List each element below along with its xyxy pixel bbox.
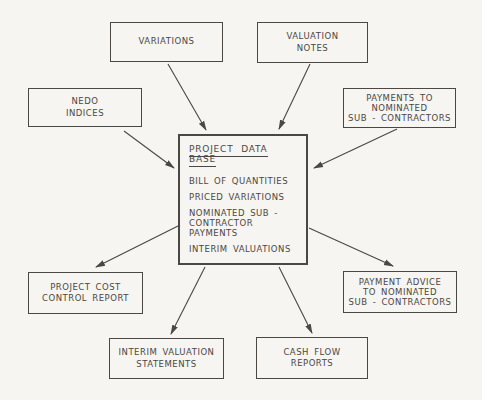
node-label-line: VARIATIONS <box>139 36 195 47</box>
node-label-line: NOTES <box>297 43 329 54</box>
arrow-nedo-indices-to-database <box>124 131 174 168</box>
arrow-database-to-project-cost-report <box>96 225 180 267</box>
arrow-variations-to-database <box>168 64 206 130</box>
node-payments-to-nominated-sub-contractors: PAYMENTS TO NOMINATED SUB - CONTRACTORS <box>343 88 456 128</box>
node-label-line: NOMINATED <box>371 103 427 113</box>
arrow-database-to-cash-flow <box>279 267 312 333</box>
node-label-line: SUB - CONTRACTORS <box>348 113 451 123</box>
node-label-line: NEDO <box>72 96 99 107</box>
node-interim-valuation-statements: INTERIM VALUATION STATEMENTS <box>109 338 224 379</box>
database-item: NOMINATED SUB - CONTRACTOR PAYMENTS <box>189 208 302 238</box>
node-label-line: PROJECT COST <box>50 282 121 293</box>
node-payment-advice-to-nominated-sub-contractors: PAYMENT ADVICE TO NOMINATED SUB - CONTRA… <box>343 271 457 313</box>
database-item: BILL OF QUANTITIES <box>189 176 302 186</box>
database-item-line: CONTRACTOR PAYMENTS <box>189 218 302 238</box>
database-item-line: PRICED VARIATIONS <box>189 192 302 202</box>
database-item-line: NOMINATED SUB - <box>189 208 302 218</box>
node-label-line: REPORTS <box>291 358 333 369</box>
node-label-line: INDICES <box>66 108 104 119</box>
arrow-database-to-interim-statements <box>171 267 205 334</box>
database-item: PRICED VARIATIONS <box>189 192 302 202</box>
node-nedo-indices: NEDO INDICES <box>28 88 142 127</box>
node-variations: VARIATIONS <box>110 22 223 62</box>
database-item-line: BILL OF QUANTITIES <box>189 176 302 186</box>
node-valuation-notes: VALUATION NOTES <box>257 22 368 63</box>
node-label-line: INTERIM VALUATION <box>119 347 215 358</box>
node-label-line: CONTROL REPORT <box>42 293 129 304</box>
database-title: PROJECT DATA BASE <box>189 144 302 164</box>
node-label-line: STATEMENTS <box>136 359 196 370</box>
node-project-data-base: PROJECT DATA BASE BILL OF QUANTITIES PRI… <box>178 134 308 265</box>
node-cash-flow-reports: CASH FLOW REPORTS <box>256 337 368 379</box>
database-item-line: INTERIM VALUATIONS <box>189 244 302 254</box>
node-label-line: PAYMENT ADVICE <box>359 277 442 287</box>
node-label-line: PAYMENTS TO <box>366 93 433 103</box>
diagram-canvas: VARIATIONS VALUATION NOTES NEDO INDICES … <box>0 0 482 400</box>
database-title-text: PROJECT DATA BASE <box>189 144 268 167</box>
node-label-line: TO NOMINATED <box>363 287 437 297</box>
node-label-line: SUB - CONTRACTORS <box>349 297 452 307</box>
node-label-line: CASH FLOW <box>283 347 340 358</box>
node-label-line: VALUATION <box>286 31 338 42</box>
arrow-database-to-payment-advice <box>309 228 393 266</box>
database-item: INTERIM VALUATIONS <box>189 244 302 254</box>
node-project-cost-control-report: PROJECT COST CONTROL REPORT <box>28 272 143 314</box>
arrow-payments-to-database <box>314 129 397 168</box>
arrow-valuation-notes-to-database <box>279 64 310 129</box>
